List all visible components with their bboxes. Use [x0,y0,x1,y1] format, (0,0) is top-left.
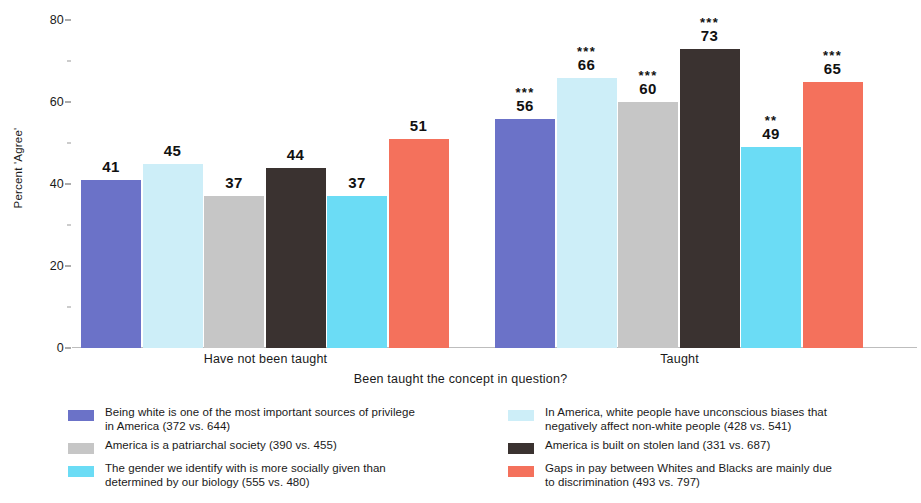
legend-swatch [68,443,94,454]
bar-group-item: 51 [389,12,449,348]
legend-item: America is built on stolen land (331 vs.… [508,439,770,454]
legend-item: Gaps in pay between Whites and Blacks ar… [508,462,832,489]
bar-significance-marker: *** [823,53,842,59]
legend-item: The gender we identify with is more soci… [68,462,386,489]
y-axis-title: Percent 'Agree' [12,88,24,248]
bar [389,139,449,348]
bar [680,49,740,348]
bar [741,147,801,348]
bar [143,164,203,348]
bar [204,196,264,348]
bar-chart-figure: Percent 'Agree' 020406080 41453744375156… [0,0,921,503]
bar-group-item: 73*** [680,12,740,348]
y-tick-mark [65,20,71,21]
legend-swatch [68,466,94,477]
bar-significance-marker: ** [765,118,778,124]
bar [266,168,326,348]
y-tick-label: 80 [50,13,64,27]
legend-swatch [68,410,94,421]
legend-label: Gaps in pay between Whites and Blacks ar… [545,462,832,489]
bar-significance-marker: *** [639,73,658,79]
bar-group-item: 44 [266,12,326,348]
bar-group-item: 60*** [618,12,678,348]
bar-value-label: 37 [225,174,242,191]
x-group-label: Have not been taught [204,352,328,366]
legend-label: In America, white people have unconsciou… [545,406,827,433]
y-axis: Percent 'Agree' 020406080 [0,12,72,348]
y-tick-mark [65,266,71,267]
legend-swatch [508,410,534,421]
y-tick-mark-minor [67,307,71,308]
legend-label: Being white is one of the most important… [105,406,415,433]
bar [81,180,141,348]
bar [327,196,387,348]
bar-group-item: 66*** [557,12,617,348]
legend-swatch [508,443,534,454]
bar-group-item: 41 [81,12,141,348]
chart-legend: Being white is one of the most important… [0,404,921,503]
bar-value-label: 45 [164,142,181,159]
bar-group-item: 65*** [803,12,863,348]
bar-significance-marker: *** [516,90,535,96]
bar-group-item: 37 [327,12,387,348]
legend-item: America is a patriarchal society (390 vs… [68,439,337,454]
y-tick-mark-minor [67,61,71,62]
legend-label: America is a patriarchal society (390 vs… [105,439,337,453]
bar-value-label: 44 [287,146,304,163]
legend-item: In America, white people have unconsciou… [508,406,827,433]
bar-group-item: 45 [143,12,203,348]
bar-group-item: 37 [204,12,264,348]
bar-group-item: 56*** [495,12,555,348]
y-tick-mark [65,348,71,349]
y-tick-label: 40 [50,177,64,191]
y-tick-label: 60 [50,95,64,109]
legend-label: America is built on stolen land (331 vs.… [545,439,770,453]
y-tick-mark [65,184,71,185]
bar [618,102,678,348]
bar-value-label: 51 [410,117,427,134]
bar [495,119,555,348]
x-group-label: Taught [660,352,699,366]
y-tick-mark [65,102,71,103]
y-tick-label: 20 [50,259,64,273]
bar-value-label: 37 [348,174,365,191]
legend-label: The gender we identify with is more soci… [105,462,386,489]
bar [803,82,863,348]
bar-significance-marker: *** [700,20,719,26]
y-tick-mark-minor [67,143,71,144]
y-tick-label: 0 [57,341,64,355]
legend-swatch [508,466,534,477]
plot-area: 41453744375156***66***60***73***49**65**… [72,12,917,348]
bar [557,78,617,348]
y-tick-mark-minor [67,225,71,226]
bar-group-item: 49** [741,12,801,348]
bar-value-label: 41 [102,158,119,175]
bar-significance-marker: *** [577,49,596,55]
x-axis-title: Been taught the concept in question? [0,372,921,386]
legend-item: Being white is one of the most important… [68,406,415,433]
